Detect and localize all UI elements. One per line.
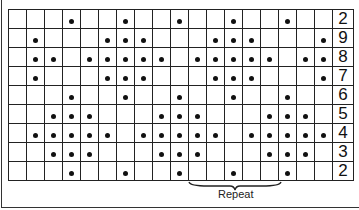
chart-cell <box>153 67 171 86</box>
stitch-dot-icon <box>87 114 92 119</box>
chart-cell <box>63 29 81 48</box>
chart-row: 9 <box>9 29 354 48</box>
chart-cell <box>99 162 117 181</box>
chart-cell <box>63 67 81 86</box>
stitch-dot-icon <box>87 152 92 157</box>
stitch-dot-icon <box>51 57 56 62</box>
stitch-dot-icon <box>69 19 74 24</box>
chart-cell <box>27 162 45 181</box>
chart-cell <box>45 86 63 105</box>
stitch-dot-icon <box>195 133 200 138</box>
chart-cell <box>81 29 99 48</box>
chart-cell <box>9 10 27 29</box>
chart-cell <box>81 143 99 162</box>
chart-row: 7 <box>9 67 354 86</box>
chart-cell <box>171 143 189 162</box>
chart-cell <box>45 48 63 67</box>
chart-cell <box>297 86 315 105</box>
chart-cell <box>279 67 297 86</box>
chart-row: 4 <box>9 124 354 143</box>
chart-cell <box>261 143 279 162</box>
chart-cell <box>63 10 81 29</box>
chart-cell <box>9 162 27 181</box>
chart-cell <box>315 67 333 86</box>
chart-cell <box>27 10 45 29</box>
stitch-dot-icon <box>69 95 74 100</box>
stitch-dot-icon <box>69 133 74 138</box>
stitch-dot-icon <box>123 171 128 176</box>
stitch-dot-icon <box>213 38 218 43</box>
stitch-dot-icon <box>105 133 110 138</box>
chart-cell <box>189 48 207 67</box>
chart-cell <box>9 29 27 48</box>
stitch-dot-icon <box>141 76 146 81</box>
chart-cell <box>243 86 261 105</box>
chart-cell <box>99 29 117 48</box>
stitch-dot-icon <box>159 133 164 138</box>
chart-cell <box>45 162 63 181</box>
stitch-dot-icon <box>177 19 182 24</box>
stitch-dot-icon <box>33 133 38 138</box>
chart-cell <box>117 143 135 162</box>
stitch-dot-icon <box>285 95 290 100</box>
stitch-dot-icon <box>87 133 92 138</box>
chart-row: 6 <box>9 86 354 105</box>
row-number: 3 <box>333 143 354 162</box>
chart-cell <box>189 67 207 86</box>
stitch-dot-icon <box>195 114 200 119</box>
chart-cell <box>243 105 261 124</box>
stitch-dot-icon <box>51 114 56 119</box>
chart-cell <box>261 67 279 86</box>
stitch-dot-icon <box>303 57 308 62</box>
stitch-dot-icon <box>231 171 236 176</box>
chart-cell <box>261 29 279 48</box>
chart-cell <box>63 105 81 124</box>
stitch-dot-icon <box>123 19 128 24</box>
chart-cell <box>81 162 99 181</box>
chart-cell <box>171 86 189 105</box>
chart-cell <box>243 143 261 162</box>
chart-cell <box>279 143 297 162</box>
frame-left-border <box>1 0 2 208</box>
stitch-dot-icon <box>231 76 236 81</box>
stitch-dot-icon <box>321 76 326 81</box>
chart-cell <box>297 105 315 124</box>
stitch-dot-icon <box>321 57 326 62</box>
chart-cell <box>207 10 225 29</box>
chart-cell <box>225 67 243 86</box>
chart-cell <box>279 48 297 67</box>
chart-cell <box>45 67 63 86</box>
chart-cell <box>171 162 189 181</box>
chart-cell <box>297 67 315 86</box>
row-number: 7 <box>333 67 354 86</box>
chart-cell <box>189 143 207 162</box>
chart-row: 3 <box>9 143 354 162</box>
stitch-dot-icon <box>195 152 200 157</box>
chart-cell <box>315 143 333 162</box>
chart-cell <box>207 124 225 143</box>
stitch-dot-icon <box>321 133 326 138</box>
chart-cell <box>99 124 117 143</box>
chart-cell <box>117 162 135 181</box>
chart-cell <box>207 143 225 162</box>
chart-cell <box>135 48 153 67</box>
chart-cell <box>189 29 207 48</box>
chart-cell <box>153 143 171 162</box>
chart-cell <box>63 86 81 105</box>
chart-cell <box>63 124 81 143</box>
chart-cell <box>117 124 135 143</box>
stitch-dot-icon <box>123 76 128 81</box>
chart-cell <box>207 67 225 86</box>
chart-cell <box>117 10 135 29</box>
chart-cell <box>279 10 297 29</box>
chart-cell <box>297 162 315 181</box>
chart-cell <box>171 29 189 48</box>
chart-cell <box>45 143 63 162</box>
chart-cell <box>81 67 99 86</box>
stitch-dot-icon <box>105 76 110 81</box>
stitch-dot-icon <box>51 133 56 138</box>
chart-cell <box>45 124 63 143</box>
chart-cell <box>27 48 45 67</box>
chart-cell <box>207 86 225 105</box>
stitch-dot-icon <box>141 133 146 138</box>
